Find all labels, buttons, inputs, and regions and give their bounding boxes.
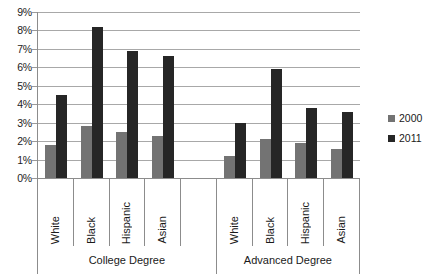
legend-label: 2011 (399, 133, 422, 143)
legend-swatch-icon (388, 135, 395, 142)
y-axis-tick-label: 1% (0, 155, 32, 165)
bar-pair (181, 12, 217, 178)
bar-group (110, 12, 146, 178)
y-axis-labels: 0%1%2%3%4%5%6%7%8%9% (0, 12, 32, 178)
bar-2011[interactable] (163, 56, 174, 178)
category-label: White (50, 216, 61, 244)
bar-2000[interactable] (45, 145, 56, 178)
bar-2011[interactable] (56, 95, 67, 178)
bar-pair (324, 12, 360, 178)
category-cell: Hispanic (110, 178, 146, 246)
group-label: College Degree (89, 254, 165, 266)
bar-pair (74, 12, 110, 178)
bar-group (74, 12, 110, 178)
bar-group (324, 12, 360, 178)
category-cell: Hispanic (288, 178, 324, 246)
bar-pair (110, 12, 146, 178)
category-cell: Black (74, 178, 110, 246)
y-axis-tick-label: 3% (0, 118, 32, 128)
bars-layer (38, 12, 360, 178)
bar-group (253, 12, 289, 178)
category-label: White (229, 216, 240, 244)
category-cell (181, 178, 217, 246)
category-label: Black (86, 217, 97, 244)
bar-group (145, 12, 181, 178)
legend-label: 2000 (399, 113, 422, 123)
category-label: Asian (157, 216, 168, 244)
bar-group (181, 12, 217, 178)
category-label: Hispanic (300, 202, 311, 244)
y-axis-tick-label: 0% (0, 173, 32, 183)
y-axis-tick-label: 4% (0, 99, 32, 109)
plot-area (37, 12, 360, 178)
bar-2011[interactable] (235, 123, 246, 178)
bar-2000[interactable] (116, 132, 127, 178)
bar-2011[interactable] (92, 27, 103, 178)
y-axis-tick-label: 8% (0, 25, 32, 35)
y-axis-tick-label: 2% (0, 136, 32, 146)
bar-pair (38, 12, 74, 178)
legend-swatch-icon (388, 115, 395, 122)
bar-pair (253, 12, 289, 178)
group-cell: College Degree (38, 246, 217, 274)
category-cell: Black (253, 178, 289, 246)
y-axis-tick-label: 9% (0, 7, 32, 17)
bar-2000[interactable] (295, 143, 306, 178)
bar-2000[interactable] (260, 139, 271, 178)
bar-2000[interactable] (152, 136, 163, 178)
bar-2011[interactable] (306, 108, 317, 178)
bar-2011[interactable] (127, 51, 138, 178)
category-cell: Asian (324, 178, 359, 246)
category-cell: White (38, 178, 74, 246)
bar-2000[interactable] (224, 156, 235, 178)
bar-group (288, 12, 324, 178)
bar-pair (145, 12, 181, 178)
bar-pair (288, 12, 324, 178)
category-cell: Asian (145, 178, 181, 246)
bar-group (217, 12, 253, 178)
category-label: Hispanic (121, 202, 132, 244)
category-label: Asian (336, 216, 347, 244)
group-label: Advanced Degree (244, 254, 332, 266)
category-axis: WhiteBlackHispanicAsianWhiteBlackHispani… (37, 178, 360, 246)
chart-legend: 20002011 (388, 113, 422, 143)
bar-2011[interactable] (271, 69, 282, 178)
bar-2000[interactable] (81, 126, 92, 178)
bar-pair (217, 12, 253, 178)
bar-2011[interactable] (342, 112, 353, 178)
y-axis-tick-label: 6% (0, 62, 32, 72)
group-axis: College DegreeAdvanced Degree (37, 246, 360, 274)
bar-2000[interactable] (331, 149, 342, 179)
y-axis-tick-label: 7% (0, 44, 32, 54)
category-label: Black (265, 217, 276, 244)
y-axis-tick-label: 5% (0, 81, 32, 91)
legend-item[interactable]: 2011 (388, 133, 422, 143)
legend-item[interactable]: 2000 (388, 113, 422, 123)
bar-chart: 0%1%2%3%4%5%6%7%8%9% WhiteBlackHispanicA… (0, 0, 436, 274)
category-cell: White (217, 178, 253, 246)
group-cell: Advanced Degree (217, 246, 359, 274)
bar-group (38, 12, 74, 178)
